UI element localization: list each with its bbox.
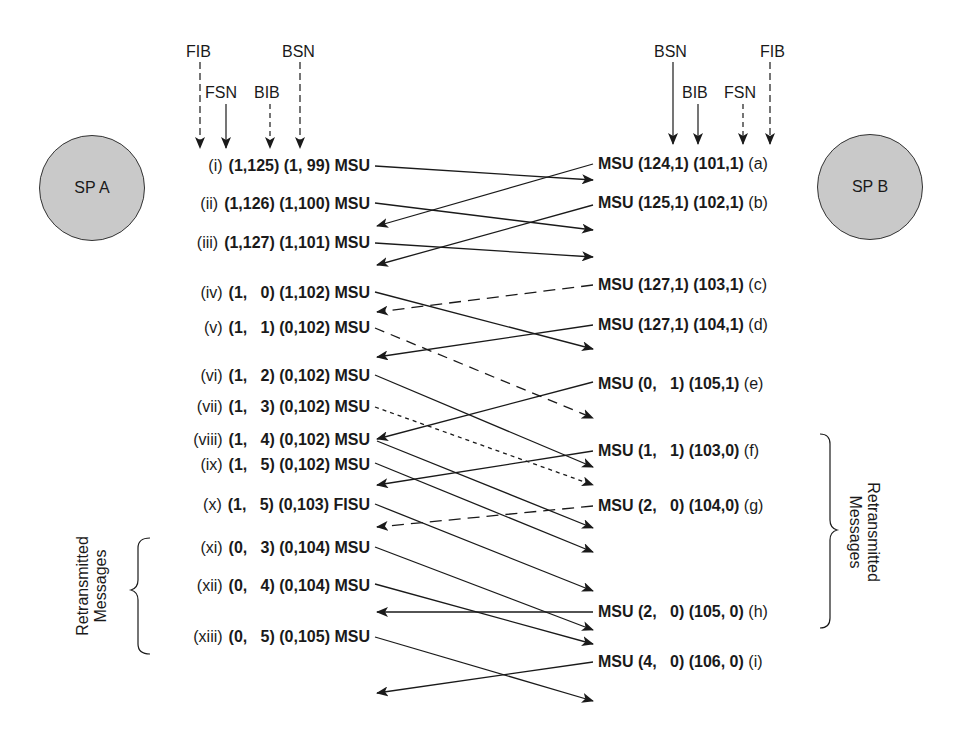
- node-a-label: SP A: [74, 179, 109, 197]
- sequence-diagram-canvas: [0, 0, 965, 743]
- arrow-a-x: [375, 504, 593, 591]
- su-row-a: (ii)(1,126) (1,100) MSU: [200, 196, 370, 212]
- arrow-a-ii: [375, 203, 593, 230]
- su-row-b: MSU (127,1) (104,1) (d): [598, 317, 768, 333]
- header-fsn-b: FSN: [724, 85, 756, 101]
- header-fib-a: FIB: [186, 44, 211, 60]
- header-fib-b: FIB: [760, 44, 785, 60]
- su-row-b: MSU (1, 1) (103,0) (f): [598, 443, 759, 459]
- retransmit-label-a: Retransmitted Messages: [74, 526, 114, 646]
- su-row-a: (i)(1,125) (1, 99) MSU: [208, 158, 370, 174]
- header-bsn-b: BSN: [654, 44, 687, 60]
- su-row-b: MSU (125,1) (102,1) (b): [598, 195, 768, 211]
- header-bib-a: BIB: [254, 85, 280, 101]
- su-row-a: (vi)(1, 2) (0,102) MSU: [200, 368, 370, 384]
- signaling-point-a: SP A: [39, 135, 145, 241]
- su-row-b: MSU (124,1) (101,1) (a): [598, 156, 768, 172]
- arrow-b-b: [377, 205, 593, 265]
- arrow-b-g: [377, 506, 593, 527]
- su-row-a: (xii)(0, 4) (0,104) MSU: [197, 578, 370, 594]
- su-row-b: MSU (0, 1) (105,1) (e): [598, 376, 763, 392]
- header-bsn-a: BSN: [282, 44, 315, 60]
- su-row-a: (ix)(1, 5) (0,102) MSU: [200, 457, 370, 473]
- arrow-a-iii: [375, 243, 593, 257]
- arrow-b-f: [377, 451, 593, 485]
- su-row-b: MSU (2, 0) (105, 0) (h): [598, 604, 768, 620]
- retransmit-brace-b: [820, 434, 837, 628]
- field-pointers-a: [200, 62, 300, 148]
- su-row-a: (vii)(1, 3) (0,102) MSU: [197, 399, 370, 415]
- su-row-b: MSU (2, 0) (104,0) (g): [598, 498, 763, 514]
- su-row-b: MSU (4, 0) (106, 0) (i): [598, 654, 763, 670]
- su-row-b: MSU (127,1) (103,1) (c): [598, 277, 767, 293]
- header-bib-b: BIB: [682, 85, 708, 101]
- su-row-a: (iv)(1, 0) (1,102) MSU: [200, 285, 370, 301]
- arrow-a-xi: [375, 547, 593, 630]
- arrow-b-i: [377, 662, 593, 693]
- arrows-a-to-b: [375, 166, 593, 701]
- field-pointers-b: [673, 62, 770, 144]
- arrow-a-ix: [375, 463, 593, 552]
- su-row-a: (xiii)(0, 5) (0,105) MSU: [193, 629, 370, 645]
- su-row-a: (xi)(0, 3) (0,104) MSU: [200, 540, 370, 556]
- arrow-a-vii: [375, 407, 593, 485]
- header-fsn-a: FSN: [205, 85, 237, 101]
- node-b-label: SP B: [852, 178, 888, 196]
- arrow-a-viii: [377, 441, 593, 528]
- arrow-a-xii: [375, 584, 593, 644]
- su-row-a: (viii)(1, 4) (0,102) MSU: [193, 432, 370, 448]
- arrow-a-xiii: [375, 637, 593, 701]
- signaling-point-b: SP B: [817, 134, 923, 240]
- retransmit-brace-a: [131, 538, 150, 654]
- su-row-a: (iii)(1,127) (1,101) MSU: [197, 235, 370, 251]
- retransmit-label-b: Retransmitted Messages: [842, 472, 882, 592]
- su-row-a: (v)(1, 1) (0,102) MSU: [204, 320, 370, 336]
- su-row-a: (x)(1, 5) (0,103) FISU: [203, 497, 370, 513]
- arrow-a-iv: [375, 292, 593, 349]
- arrow-b-c: [377, 285, 593, 312]
- arrow-b-e: [377, 382, 593, 439]
